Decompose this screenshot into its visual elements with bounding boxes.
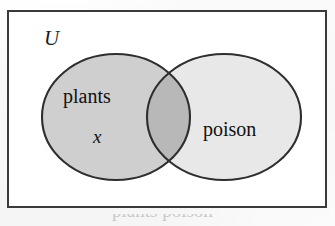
- set-label-poison: poison: [203, 119, 256, 139]
- caption-sliver-text: plants poison: [112, 214, 213, 222]
- element-label-x: x: [93, 127, 101, 146]
- set-label-plants: plants: [63, 86, 111, 106]
- venn-diagram-figure: U plants x poison plants poison: [0, 0, 335, 226]
- universe-label: U: [44, 28, 60, 49]
- caption-sliver: plants poison: [0, 214, 335, 226]
